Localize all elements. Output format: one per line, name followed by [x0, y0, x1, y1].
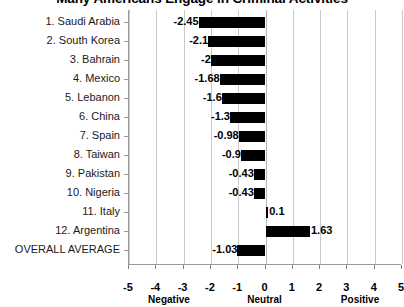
x-group-label: Positive: [341, 294, 379, 306]
bar-row: -1.6: [129, 89, 401, 108]
x-tick: [265, 265, 266, 269]
gridline: [402, 10, 403, 264]
bar-value-label: -1.68: [129, 72, 220, 85]
x-tick-label: -1: [232, 281, 242, 293]
bar: [254, 169, 266, 180]
bar: [266, 226, 310, 237]
x-tick-label: 0: [261, 281, 267, 293]
chart-title: Many Americans Engage in Criminal Activi…: [0, 0, 404, 6]
x-tick: [155, 265, 156, 269]
bar-value-label: -1.03: [129, 243, 237, 256]
bar-row: -0.9: [129, 146, 401, 165]
bar-row: -1.3: [129, 108, 401, 127]
category-label: 10. Nigeria: [0, 186, 120, 199]
category-label: 11. Italy: [0, 205, 120, 218]
bar: [220, 74, 266, 85]
bar-row: -0.43: [129, 165, 401, 184]
category-label: 5. Lebanon: [0, 91, 120, 104]
bar-chart: Many Americans Engage in Criminal Activi…: [0, 0, 404, 307]
x-group-label: Neutral: [247, 294, 281, 306]
x-tick-label: 2: [316, 281, 322, 293]
x-tick: [237, 265, 238, 269]
x-tick-label: -3: [178, 281, 188, 293]
plot-area: -2.45-2.1-2-1.68-1.6-1.3-0.98-0.9-0.43-0…: [128, 10, 401, 265]
category-label: 3. Bahrain: [0, 53, 120, 66]
bar-value-label: -0.9: [129, 148, 241, 161]
bar-value-label: -2.45: [129, 15, 199, 28]
bar-row: 0.1: [129, 203, 401, 222]
x-tick: [374, 265, 375, 269]
x-tick-label: -5: [123, 281, 133, 293]
bar-row: -1.68: [129, 70, 401, 89]
bar-row: -1.03: [129, 241, 401, 260]
category-label: 8. Taiwan: [0, 148, 120, 161]
category-label: 2. South Korea: [0, 34, 120, 47]
x-tick-label: 3: [343, 281, 349, 293]
bar-value-label: 0.1: [269, 205, 284, 218]
bar: [199, 17, 266, 28]
bar-row: -0.98: [129, 127, 401, 146]
bar: [222, 93, 266, 104]
x-tick: [319, 265, 320, 269]
bar: [239, 131, 266, 142]
category-axis: 1. Saudi Arabia2. South Korea3. Bahrain4…: [0, 10, 128, 265]
bar: [237, 245, 265, 256]
x-tick: [292, 265, 293, 269]
bar-value-label: -0.43: [129, 186, 254, 199]
bar-value-label: -1.3: [129, 110, 230, 123]
bar: [230, 112, 265, 123]
category-label: 4. Mexico: [0, 72, 120, 85]
bar: [266, 207, 269, 218]
category-label: 1. Saudi Arabia: [0, 15, 120, 28]
x-group-label: Negative: [148, 294, 190, 306]
bar-row: 1.63: [129, 222, 401, 241]
category-label: OVERALL AVERAGE: [0, 243, 120, 256]
bar-row: -2.1: [129, 32, 401, 51]
category-label: 9. Pakistan: [0, 167, 120, 180]
bar: [241, 150, 266, 161]
x-tick: [401, 265, 402, 269]
x-tick: [210, 265, 211, 269]
bar-value-label: -2.1: [129, 34, 208, 47]
x-tick: [128, 265, 129, 269]
bar-value-label: -0.43: [129, 167, 254, 180]
x-tick-label: -4: [150, 281, 160, 293]
bar-value-label: -0.98: [129, 129, 239, 142]
x-tick-label: 1: [289, 281, 295, 293]
x-axis: -5-4-3-2-1012345NegativeNeutralPositive: [128, 265, 401, 307]
category-label: 7. Spain: [0, 129, 120, 142]
bar-value-label: -1.6: [129, 91, 222, 104]
x-tick: [183, 265, 184, 269]
bar: [211, 55, 266, 66]
bar: [254, 188, 266, 199]
bar-value-label: 1.63: [311, 224, 332, 237]
x-tick-label: 4: [371, 281, 377, 293]
x-tick-label: -2: [205, 281, 215, 293]
x-tick-label: 5: [398, 281, 404, 293]
category-label: 6. China: [0, 110, 120, 123]
bar: [208, 36, 265, 47]
bar-row: -0.43: [129, 184, 401, 203]
bar-row: -2: [129, 51, 401, 70]
x-tick: [346, 265, 347, 269]
bar-value-label: -2: [129, 53, 211, 66]
bar-row: -2.45: [129, 13, 401, 32]
category-label: 12. Argentina: [0, 224, 120, 237]
